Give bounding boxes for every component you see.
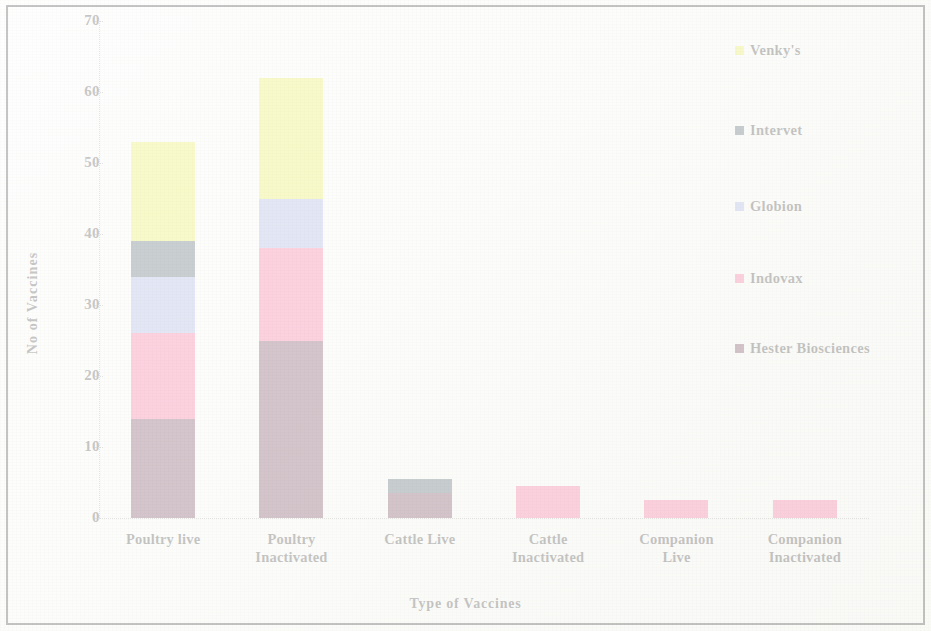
bar-segment-hester-biosciences[interactable]: [259, 341, 323, 519]
legend-swatch-icon: [735, 202, 744, 211]
bar-segment-indovax[interactable]: [773, 500, 837, 518]
legend-label: Indovax: [750, 270, 803, 287]
bar-segment-indovax[interactable]: [644, 500, 708, 518]
legend-item-indovax[interactable]: Indovax: [735, 270, 803, 287]
bar-slot: [227, 21, 355, 518]
legend-swatch-icon: [735, 274, 744, 283]
x-axis-title: Type of Vaccines: [0, 596, 931, 612]
bar-segment-globion[interactable]: [259, 199, 323, 249]
y-axis-tick-mark: [95, 21, 103, 22]
bar-segment-venky-s[interactable]: [259, 78, 323, 199]
y-axis-tick-label: 40: [54, 225, 100, 242]
x-axis-line: [99, 518, 869, 519]
x-axis-category-label: Poultry live: [99, 530, 227, 548]
y-axis-tick-mark: [95, 305, 103, 306]
stacked-bar[interactable]: [644, 500, 708, 518]
legend-swatch-icon: [735, 126, 744, 135]
legend-label: Intervet: [750, 122, 802, 139]
y-axis-tick-mark: [95, 163, 103, 164]
bar-segment-intervet[interactable]: [131, 241, 195, 277]
y-axis-tick-mark: [95, 447, 103, 448]
legend-swatch-icon: [735, 46, 744, 55]
stacked-bar[interactable]: [388, 479, 452, 518]
plot-area: 010203040506070 No of Vaccines Type of V…: [0, 0, 931, 631]
x-axis-category-label: Cattle Live: [356, 530, 484, 548]
legend-label: Hester Biosciences: [750, 340, 870, 357]
legend-item-hester-biosciences[interactable]: Hester Biosciences: [735, 340, 870, 357]
stacked-bar[interactable]: [773, 500, 837, 518]
y-axis-tick-mark: [95, 376, 103, 377]
x-axis-category-label: CompanionLive: [612, 530, 740, 566]
y-axis-tick-mark: [95, 518, 103, 519]
y-axis-tick-mark: [95, 92, 103, 93]
figure-container: 010203040506070 No of Vaccines Type of V…: [0, 0, 931, 631]
x-axis-category-label: CattleInactivated: [484, 530, 612, 566]
y-axis-tick-label: 70: [54, 12, 100, 29]
bar-segment-venky-s[interactable]: [131, 142, 195, 241]
y-axis-tick-label: 20: [54, 367, 100, 384]
bar-slot: [484, 21, 612, 518]
y-axis-tick-mark: [95, 234, 103, 235]
legend-item-venky-s[interactable]: Venky's: [735, 42, 801, 59]
bar-segment-indovax[interactable]: [131, 333, 195, 418]
y-axis-tick-label: 50: [54, 154, 100, 171]
legend-item-intervet[interactable]: Intervet: [735, 122, 802, 139]
bar-segment-indovax[interactable]: [259, 248, 323, 340]
bar-slot: [612, 21, 740, 518]
legend-item-globion[interactable]: Globion: [735, 198, 802, 215]
bar-segment-globion[interactable]: [131, 277, 195, 334]
y-axis-tick-label: 0: [54, 509, 100, 526]
legend-label: Globion: [750, 198, 802, 215]
stacked-bar[interactable]: [131, 142, 195, 518]
y-axis-tick-label: 60: [54, 83, 100, 100]
bar-segment-intervet[interactable]: [388, 479, 452, 493]
y-axis-title: No of Vaccines: [25, 208, 41, 398]
x-axis-category-label: CompanionInactivated: [741, 530, 869, 566]
bar-segment-indovax[interactable]: [516, 486, 580, 518]
bar-slot: [356, 21, 484, 518]
bar-segment-hester-biosciences[interactable]: [131, 419, 195, 518]
bar-slot: [99, 21, 227, 518]
stacked-bar[interactable]: [259, 78, 323, 518]
y-axis-tick-label: 30: [54, 296, 100, 313]
y-axis-tick-labels: 010203040506070: [40, 0, 100, 631]
y-axis-tick-label: 10: [54, 438, 100, 455]
bar-segment-hester-biosciences[interactable]: [388, 493, 452, 518]
legend-label: Venky's: [750, 42, 801, 59]
x-axis-category-label: PoultryInactivated: [227, 530, 355, 566]
legend-swatch-icon: [735, 344, 744, 353]
stacked-bar[interactable]: [516, 486, 580, 518]
